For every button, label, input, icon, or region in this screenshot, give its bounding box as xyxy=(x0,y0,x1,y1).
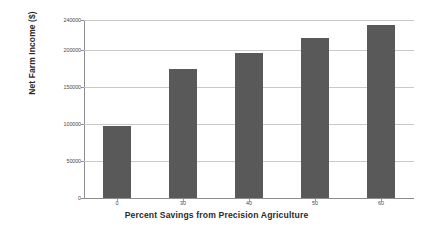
y-axis-tick-mark xyxy=(81,161,84,162)
x-axis-tick-mark xyxy=(117,199,118,202)
y-axis-tick-label: 0 xyxy=(41,195,81,201)
y-axis-tick-labels: 050000100000150000200000240000 xyxy=(38,0,81,233)
y-axis-title: Net Farm Income ($) xyxy=(27,0,37,133)
gridline xyxy=(84,20,414,21)
y-axis-tick-mark xyxy=(81,124,84,125)
y-axis-tick-label: 50000 xyxy=(41,158,81,164)
plot-area xyxy=(84,20,414,198)
y-axis-tick-mark xyxy=(81,20,84,21)
y-axis-tick-mark xyxy=(81,198,84,199)
x-axis-tick-mark xyxy=(381,199,382,202)
bar xyxy=(235,53,263,198)
y-axis-tick-label: 200000 xyxy=(41,47,81,53)
bar xyxy=(169,69,197,198)
x-axis-tick-mark xyxy=(315,199,316,202)
x-axis-tick-mark xyxy=(249,199,250,202)
x-axis-title: Percent Savings from Precision Agricultu… xyxy=(0,210,433,220)
bar xyxy=(367,25,395,198)
bar-chart-figure: Net Farm Income ($) 05000010000015000020… xyxy=(0,0,433,233)
y-axis-tick-label: 100000 xyxy=(41,121,81,127)
y-axis-tick-label: 150000 xyxy=(41,84,81,90)
gridline xyxy=(84,50,414,51)
bar xyxy=(301,38,329,198)
x-axis-tick-mark xyxy=(183,199,184,202)
y-axis-tick-mark xyxy=(81,87,84,88)
y-axis-tick-mark xyxy=(81,50,84,51)
bar xyxy=(103,126,131,198)
y-axis-tick-label: 240000 xyxy=(41,17,81,23)
